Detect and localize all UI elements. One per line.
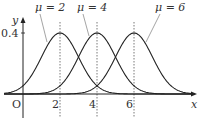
- x-axis-label: x: [191, 98, 198, 111]
- curve-mu6: [4, 33, 193, 94]
- y-tick-label-0.4: 0.4: [1, 27, 19, 40]
- x-tick-label-4: 4: [89, 98, 96, 111]
- x-tick-label-6: 6: [126, 98, 133, 111]
- origin-label: O: [12, 98, 21, 111]
- label-mu6: μ = 6: [155, 1, 185, 14]
- label-mu2: μ = 2: [35, 1, 65, 14]
- y-axis-label: y: [11, 14, 19, 27]
- leader-mu4: [83, 14, 89, 36]
- label-mu4: μ = 4: [77, 1, 107, 14]
- leader-mu2: [40, 14, 47, 42]
- normal-distribution-chart: μ = 2 μ = 4 μ = 6 y 0.4 O 2 4 6 x: [0, 0, 203, 124]
- x-tick-label-2: 2: [52, 98, 59, 111]
- y-axis-arrow-icon: [21, 17, 26, 23]
- leader-mu6: [146, 14, 160, 42]
